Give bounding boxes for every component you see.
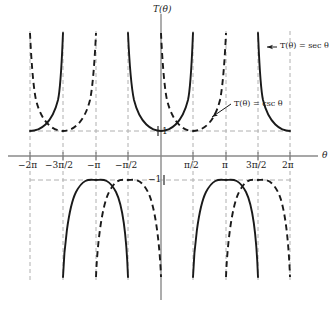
sec-branch-neg2pi xyxy=(30,33,63,131)
csc-annotation-label: T(θ) = csc θ xyxy=(234,100,283,108)
x-tick-label-neg-pi-2: −π/2 xyxy=(115,161,137,170)
vertical-gridlines xyxy=(30,31,290,283)
y-tick-label-neg-1: −1 xyxy=(148,174,161,184)
x-tick-label-pi: π xyxy=(222,161,228,170)
x-tick-label-neg-pi: −π xyxy=(87,161,100,170)
x-tick-label-3pi-2: 3π/2 xyxy=(246,161,266,170)
csc-curve xyxy=(30,33,290,277)
x-axis-label: θ xyxy=(322,151,327,160)
sec-annotation-label: T(θ) = sec θ xyxy=(280,42,329,50)
x-tick-label-pi-2: π/2 xyxy=(184,161,199,170)
csc-annotation-arrow xyxy=(212,104,231,117)
trig-plot-figure: T(θ) θ −2π −3π/2 −π −π/2 π/2 π 3π/2 2π 1… xyxy=(0,0,333,311)
x-tick-label-2pi: 2π xyxy=(282,161,294,170)
y-tick-label-1: 1 xyxy=(162,126,168,136)
x-tick-label-neg-3pi-2: −3π/2 xyxy=(45,161,73,170)
sec-curve xyxy=(30,33,290,277)
x-tick-label-neg-2pi: −2π xyxy=(18,161,37,170)
y-axis-label: T(θ) xyxy=(153,5,171,14)
